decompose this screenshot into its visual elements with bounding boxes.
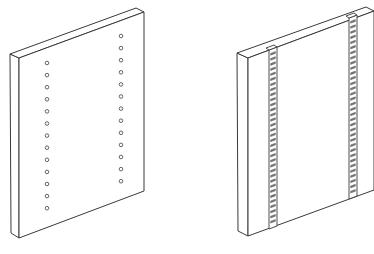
drilled-hole [119, 119, 123, 123]
drilled-hole [119, 179, 123, 183]
drilled-hole [45, 146, 49, 150]
drilled-hole [45, 134, 49, 138]
drilled-hole [119, 34, 123, 38]
drilled-hole [45, 61, 49, 65]
drilled-hole [119, 71, 123, 75]
drilled-hole [45, 73, 49, 77]
drilled-hole [45, 206, 49, 210]
drilled-hole [45, 85, 49, 89]
drilled-hole [119, 83, 123, 87]
figure-canvas [0, 0, 374, 254]
drilled-hole [45, 98, 49, 102]
panel-with-holes [10, 8, 144, 238]
drilled-hole [119, 58, 123, 62]
drilled-hole [45, 194, 49, 198]
drilled-hole [119, 107, 123, 111]
drilled-hole [119, 131, 123, 135]
drilled-hole [119, 95, 123, 99]
drilled-hole [45, 182, 49, 186]
panel-side-face [10, 54, 19, 238]
drilled-hole [45, 110, 49, 114]
drilled-hole [119, 46, 123, 50]
drilled-hole [119, 167, 123, 171]
panels-drawing [0, 0, 374, 254]
drilled-hole [45, 122, 49, 126]
drilled-hole [119, 155, 123, 159]
panel-side-face [237, 53, 248, 236]
drilled-hole [119, 143, 123, 147]
panel-with-rails [237, 7, 374, 236]
drilled-hole [45, 158, 49, 162]
drilled-hole [45, 170, 49, 174]
